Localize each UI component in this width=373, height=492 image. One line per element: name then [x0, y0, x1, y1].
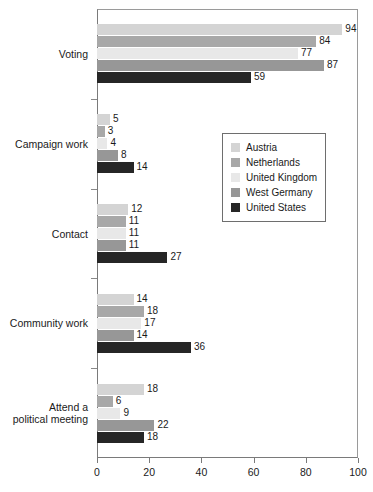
legend-label: United States [246, 202, 306, 214]
bar-value-label: 36 [191, 341, 205, 352]
legend-swatch-icon [231, 188, 240, 197]
x-axis-tick-label: 40 [196, 466, 208, 478]
bar[interactable] [97, 204, 128, 215]
legend-label: West Germany [246, 187, 313, 199]
legend-item[interactable]: United States [231, 200, 319, 215]
category-label-line: Contact [0, 228, 88, 240]
bar[interactable] [97, 150, 118, 161]
category-label: Community work [0, 317, 88, 329]
category-tick [91, 189, 97, 190]
bar[interactable] [97, 306, 144, 317]
legend-label: Austria [246, 142, 277, 154]
legend-swatch-icon [231, 173, 240, 182]
legend-swatch-icon [231, 158, 240, 167]
bar[interactable] [97, 60, 324, 71]
bar-row: 27 [0, 252, 373, 263]
bar-value-label: 9 [120, 407, 129, 418]
x-axis-tick [358, 458, 359, 463]
bar-value-label: 4 [107, 137, 116, 148]
bar-value-label: 27 [167, 251, 181, 262]
bar-value-label: 18 [144, 383, 158, 394]
bar[interactable] [97, 240, 126, 251]
bar-value-label: 94 [342, 23, 356, 34]
bar-value-label: 6 [113, 395, 122, 406]
legend-item[interactable]: Netherlands [231, 155, 319, 170]
category-label-line: Attend a [0, 401, 88, 413]
bar-value-label: 11 [126, 227, 139, 238]
bar-value-label: 14 [134, 161, 148, 172]
bar-row: 18 [0, 432, 373, 443]
legend-item[interactable]: West Germany [231, 185, 319, 200]
bar-value-label: 8 [118, 149, 127, 160]
x-axis-tick-label: 60 [248, 466, 260, 478]
legend-item[interactable]: United Kingdom [231, 170, 319, 185]
bar[interactable] [97, 216, 126, 227]
legend-item[interactable]: Austria [231, 140, 319, 155]
bar-value-label: 87 [324, 59, 338, 70]
bar-row: 14 [0, 330, 373, 341]
x-axis-tick-label: 20 [143, 466, 155, 478]
legend-label: United Kingdom [246, 172, 317, 184]
bar-row: 94 [0, 24, 373, 35]
bar-row: 87 [0, 60, 373, 71]
bar[interactable] [97, 384, 144, 395]
bar-value-label: 17 [141, 317, 155, 328]
category-label-line: Community work [0, 317, 88, 329]
category-label-line: Voting [0, 48, 88, 60]
bar[interactable] [97, 396, 113, 407]
bar[interactable] [97, 138, 107, 149]
bar-row: 36 [0, 342, 373, 353]
legend-label: Netherlands [246, 157, 300, 169]
x-axis-tick [254, 458, 255, 463]
legend-swatch-icon [231, 143, 240, 152]
bar-row: 18 [0, 306, 373, 317]
bar[interactable] [97, 24, 342, 35]
bar-row: 11 [0, 240, 373, 251]
x-axis-tick [149, 458, 150, 463]
bar-value-label: 18 [144, 305, 158, 316]
category-label-line: political meeting [0, 413, 88, 425]
bar[interactable] [97, 114, 110, 125]
bar-value-label: 5 [110, 113, 119, 124]
category-tick [91, 368, 97, 369]
bar-row: 14 [0, 294, 373, 305]
bar-value-label: 3 [105, 125, 114, 136]
category-label: Voting [0, 48, 88, 60]
bar[interactable] [97, 36, 316, 47]
bar[interactable] [97, 408, 120, 419]
bar-row: 84 [0, 36, 373, 47]
bar[interactable] [97, 342, 191, 353]
bar[interactable] [97, 252, 167, 263]
bar[interactable] [97, 294, 134, 305]
bar-value-label: 11 [126, 239, 139, 250]
category-label-line: Campaign work [0, 138, 88, 150]
bar-value-label: 59 [251, 71, 265, 82]
x-axis-tick [97, 458, 98, 463]
bar-row: 59 [0, 72, 373, 83]
bar-row: 5 [0, 114, 373, 125]
bar[interactable] [97, 432, 144, 443]
x-axis-tick-label: 80 [300, 466, 312, 478]
category-tick [91, 278, 97, 279]
bar-value-label: 12 [128, 203, 142, 214]
x-axis-tick-label: 0 [94, 466, 100, 478]
x-axis-tick [201, 458, 202, 463]
bar-value-label: 11 [126, 215, 139, 226]
category-label: Campaign work [0, 138, 88, 150]
bar[interactable] [97, 420, 154, 431]
bar-value-label: 18 [144, 431, 158, 442]
bar[interactable] [97, 228, 126, 239]
bar[interactable] [97, 72, 251, 83]
bar[interactable] [97, 318, 141, 329]
bar-value-label: 22 [154, 419, 168, 430]
legend-swatch-icon [231, 203, 240, 212]
bar[interactable] [97, 330, 134, 341]
bar[interactable] [97, 48, 298, 59]
bar[interactable] [97, 162, 134, 173]
bar[interactable] [97, 126, 105, 137]
bar-row: 18 [0, 384, 373, 395]
bar-value-label: 14 [134, 329, 148, 340]
category-label: Attend apolitical meeting [0, 401, 88, 425]
x-axis-tick [306, 458, 307, 463]
bar-value-label: 77 [298, 47, 312, 58]
